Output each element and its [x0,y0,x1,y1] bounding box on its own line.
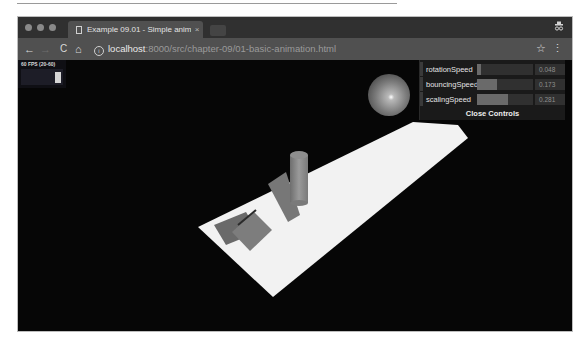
address-toolbar: ← → C ⌂ ilocalhost:8000/src/chapter-09/0… [18,38,572,60]
home-icon[interactable]: ⌂ [75,42,82,56]
control-label: bouncingSpeed [426,80,478,89]
sphere [368,74,410,116]
incognito-icon [554,21,564,33]
tab-close-icon[interactable]: × [191,25,203,34]
maximize-window-button[interactable] [49,24,56,31]
minimize-window-button[interactable] [37,24,44,31]
close-window-button[interactable] [25,24,32,31]
title-bar: Example 09.01 - Simple anim × [18,17,572,38]
fps-stats-panel[interactable]: 60 FPS (20-60) [18,60,66,88]
browser-menu-icon[interactable]: ⋮ [552,42,563,55]
back-arrow-icon[interactable]: ← [24,42,35,56]
dat-gui-controls: rotationSpeed 0.048 bouncingSpeed 0.173 … [419,60,565,120]
page-top-rule [17,3,397,4]
address-bar[interactable]: ilocalhost:8000/src/chapter-09/01-basic-… [94,42,336,56]
ground-plane [198,122,468,297]
reload-icon[interactable]: C [60,42,67,56]
bouncing-cylinder [290,151,308,206]
webgl-canvas[interactable]: 60 FPS (20-60) rotationSpeed 0.048 bounc… [18,60,572,331]
scaling-speed-slider[interactable] [477,94,533,105]
control-label: scalingSpeed [426,95,471,104]
scaling-speed-input[interactable]: 0.281 [535,94,565,105]
bookmark-star-icon[interactable]: ☆ [536,42,546,55]
tab-active[interactable]: Example 09.01 - Simple anim × [68,21,203,38]
tab-title: Example 09.01 - Simple anim [87,25,191,34]
fps-graph-bar [55,72,61,83]
bouncing-speed-slider[interactable] [477,79,533,90]
rotation-speed-slider[interactable] [477,64,533,75]
forward-arrow-icon[interactable]: → [40,42,51,56]
document-icon [76,26,82,34]
fps-label: 60 FPS (20-60) [21,61,55,67]
url-path: :8000/src/chapter-09/01-basic-animation.… [146,43,337,54]
control-bouncing-speed: bouncingSpeed 0.173 [420,77,565,91]
fps-graph [21,69,63,85]
new-tab-button[interactable] [210,25,226,36]
close-controls-button[interactable]: Close Controls [420,109,565,118]
bouncing-speed-input[interactable]: 0.173 [535,79,565,90]
info-icon[interactable]: i [94,46,104,56]
url-host: localhost [108,43,146,54]
rotation-speed-input[interactable]: 0.048 [535,64,565,75]
control-rotation-speed: rotationSpeed 0.048 [420,62,565,76]
control-label: rotationSpeed [426,65,473,74]
browser-window: Example 09.01 - Simple anim × ← → C ⌂ il… [17,16,573,332]
control-scaling-speed: scalingSpeed 0.281 [420,92,565,106]
